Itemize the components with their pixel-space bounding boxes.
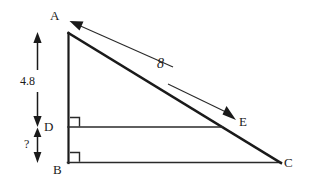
dimension-arrowhead-down-b bbox=[34, 152, 42, 163]
vertex-label-a: A bbox=[50, 9, 59, 22]
geometry-diagram: A B C D E 8 4.8 ? bbox=[0, 0, 313, 183]
dimension-label-db: ? bbox=[24, 138, 29, 150]
arrow-to-a-icon bbox=[70, 21, 84, 31]
right-angle-mark-d bbox=[70, 118, 80, 127]
dimension-label-ad: 4.8 bbox=[20, 75, 35, 87]
right-angle-mark-b bbox=[70, 153, 80, 162]
vertex-label-d: D bbox=[44, 120, 53, 133]
vertex-label-e: E bbox=[239, 115, 247, 128]
dimension-arrowhead-up bbox=[33, 32, 41, 43]
dimension-arrowhead-down-d bbox=[33, 116, 41, 127]
figure-canvas bbox=[0, 0, 313, 183]
arrow-to-e-icon bbox=[223, 106, 237, 120]
vertex-label-b: B bbox=[53, 163, 62, 176]
vertex-label-c: C bbox=[284, 156, 293, 169]
hypotenuse-length-label: 8 bbox=[157, 57, 164, 71]
segment-ac bbox=[69, 33, 282, 163]
